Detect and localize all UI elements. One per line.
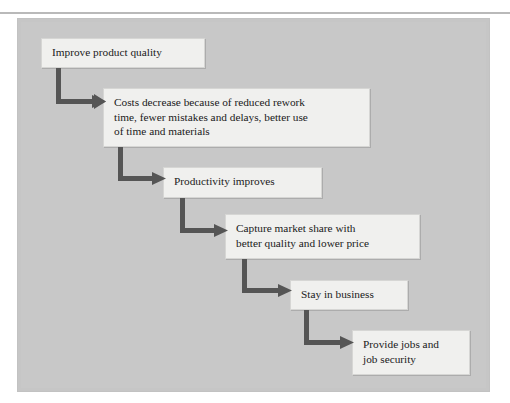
arrow-business-to-jobs: [304, 310, 356, 352]
arrow-market-to-business: [242, 259, 294, 299]
flow-node-label: Capture market share with better quality…: [236, 221, 410, 250]
flow-node-productivity-improves: Productivity improves: [163, 167, 322, 198]
top-rule-divider: [0, 12, 510, 14]
flow-node-label: Provide jobs and job security: [363, 337, 460, 366]
flow-node-label: Productivity improves: [174, 174, 312, 189]
flowchart-figure: Improve product quality Costs decrease b…: [0, 0, 510, 403]
arrow-productivity-to-market: [180, 198, 230, 240]
flow-node-stay-in-business: Stay in business: [290, 280, 408, 310]
flow-node-costs-decrease: Costs decrease because of reduced rework…: [103, 88, 370, 147]
flow-node-label: Costs decrease because of reduced rework…: [114, 95, 360, 139]
arrow-quality-to-costs: [56, 68, 108, 110]
diagram-panel: Improve product quality Costs decrease b…: [17, 18, 490, 392]
flow-node-provide-jobs: Provide jobs and job security: [352, 330, 470, 375]
flow-node-improve-product-quality: Improve product quality: [41, 38, 205, 68]
flow-node-capture-market-share: Capture market share with better quality…: [225, 214, 420, 259]
flow-node-label: Improve product quality: [52, 45, 195, 60]
flow-node-label: Stay in business: [301, 287, 398, 302]
arrow-costs-to-productivity: [118, 147, 168, 187]
